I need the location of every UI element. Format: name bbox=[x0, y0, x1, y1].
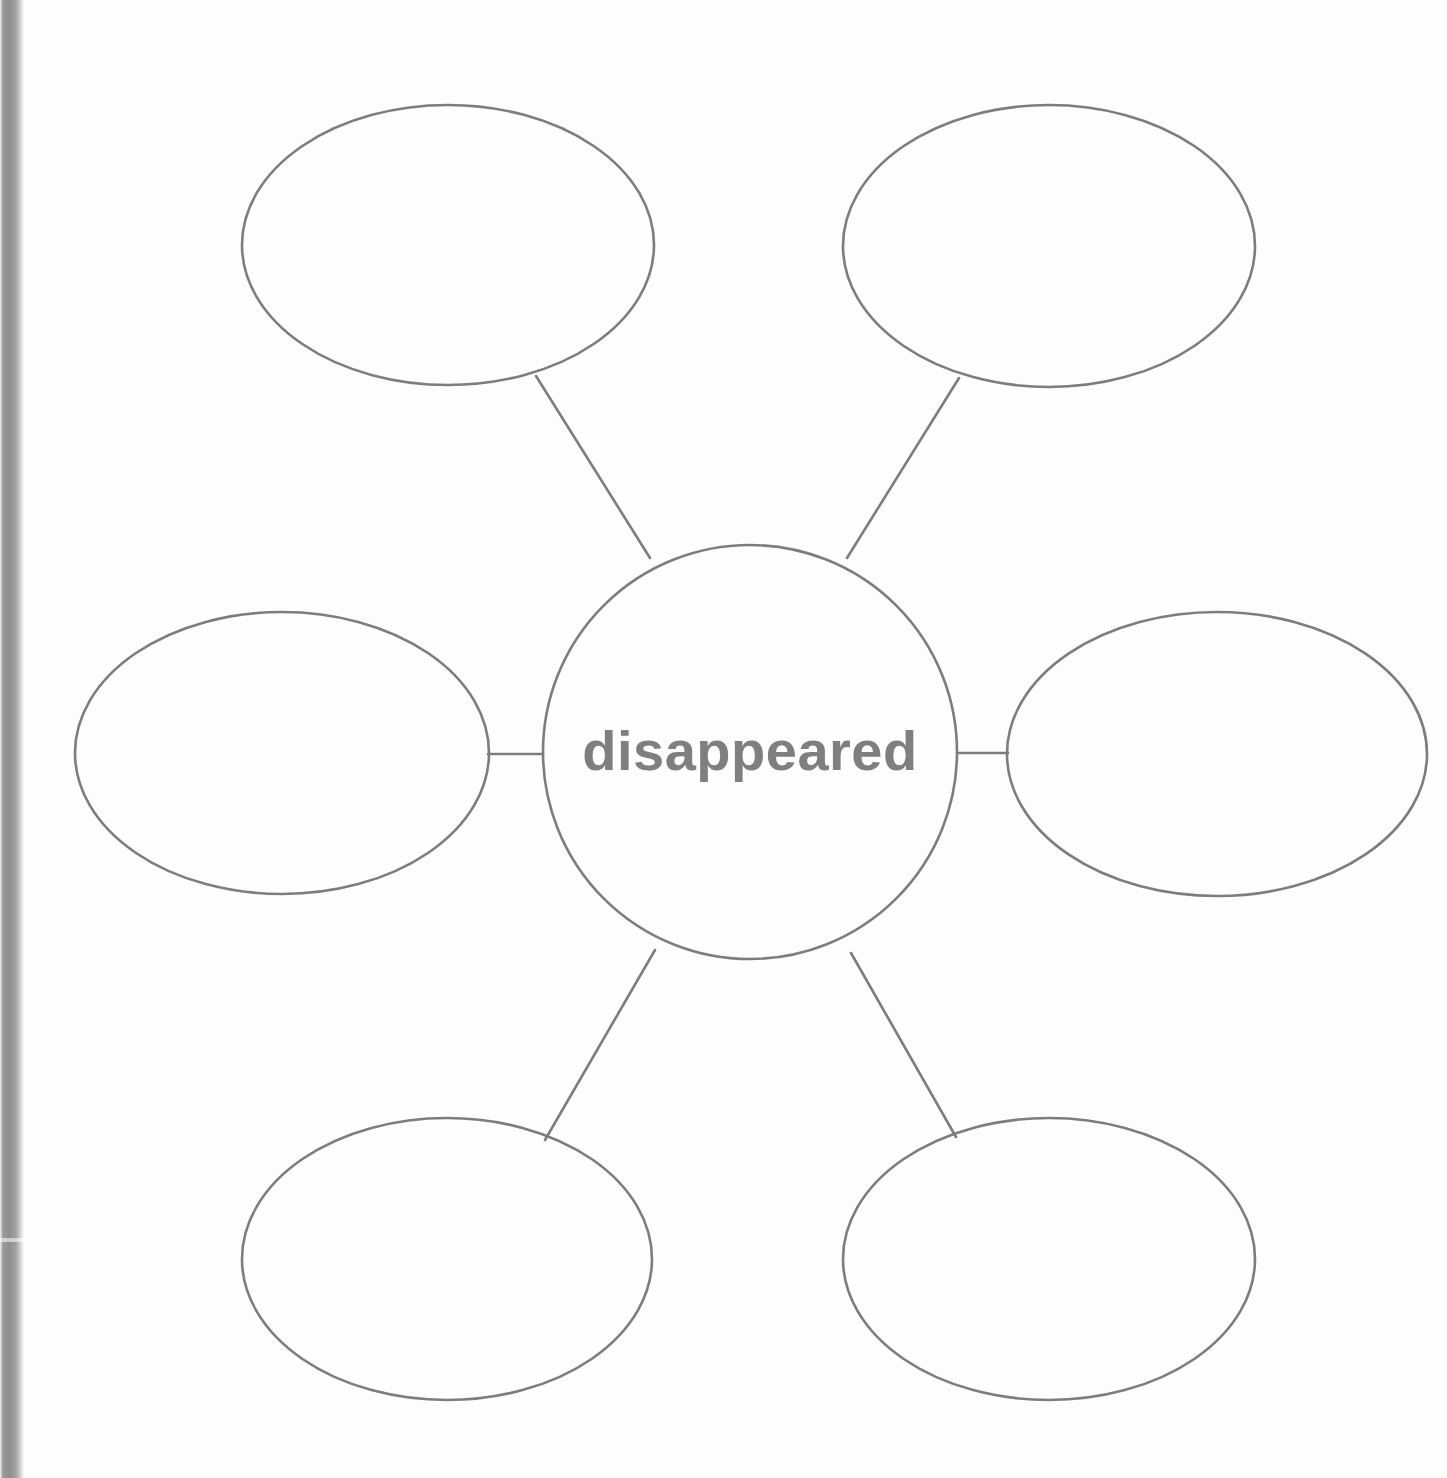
branch-bubble-bottom-left-outline[interactable] bbox=[242, 1118, 652, 1400]
branch-bubble-top-left-outline[interactable] bbox=[242, 105, 654, 385]
worksheet-page: disappeared bbox=[0, 0, 1447, 1478]
branch-bubble-top-left[interactable] bbox=[242, 105, 654, 385]
branch-bubble-middle-left-outline[interactable] bbox=[75, 612, 489, 894]
branch-bubble-middle-right-outline[interactable] bbox=[1007, 612, 1427, 896]
connector-top-left-line bbox=[536, 376, 650, 558]
branch-bubble-bottom-left[interactable] bbox=[242, 1118, 652, 1400]
center-node-label: disappeared bbox=[582, 719, 917, 782]
connector-bottom-left-line bbox=[545, 950, 655, 1140]
branch-bubble-bottom-right-outline[interactable] bbox=[843, 1118, 1255, 1400]
branch-bubble-top-right[interactable] bbox=[843, 105, 1255, 387]
word-web-diagram: disappeared bbox=[0, 0, 1447, 1478]
branch-bubble-middle-right[interactable] bbox=[1007, 612, 1427, 896]
branch-bubble-bottom-right[interactable] bbox=[843, 1118, 1255, 1400]
center-node[interactable]: disappeared bbox=[543, 545, 957, 959]
branch-bubble-middle-left[interactable] bbox=[75, 612, 489, 894]
connector-top-right-line bbox=[847, 378, 959, 558]
branch-bubble-top-right-outline[interactable] bbox=[843, 105, 1255, 387]
connector-bottom-right-line bbox=[851, 953, 956, 1137]
